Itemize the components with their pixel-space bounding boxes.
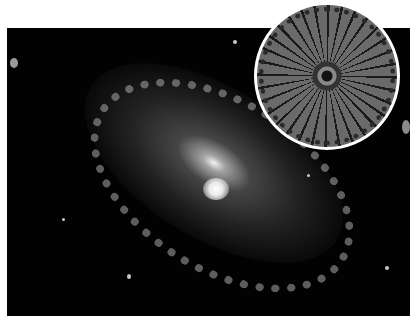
- star: [385, 266, 389, 270]
- star: [10, 58, 18, 68]
- galaxy-core: [203, 178, 229, 200]
- star: [307, 174, 310, 177]
- diatom-inset: [254, 2, 400, 150]
- star: [62, 218, 65, 221]
- star: [233, 40, 237, 44]
- star: [127, 274, 131, 279]
- star: [402, 120, 410, 134]
